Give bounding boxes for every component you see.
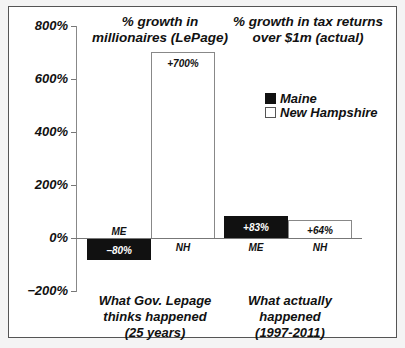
- group1-caption-line1: What Gov. Lepage: [85, 293, 225, 309]
- tick-600: [71, 79, 76, 80]
- group1-caption-line2: thinks happened: [85, 309, 225, 325]
- bar-label-nh-actual: +64%: [288, 225, 352, 236]
- group2-caption-line3: (1997-2011): [230, 325, 350, 341]
- legend-item-maine: Maine: [265, 91, 317, 106]
- group2-caption: What actually happened (1997-2011): [230, 293, 350, 341]
- legend-swatch-new-hampshire: [265, 107, 276, 118]
- group1-caption: What Gov. Lepage thinks happened (25 yea…: [85, 293, 225, 341]
- tick-minus-200: [71, 291, 76, 292]
- tick-400: [71, 132, 76, 133]
- legend-swatch-maine: [265, 93, 276, 104]
- legend-label-new-hampshire: New Hampshire: [280, 105, 378, 120]
- cat-label-me: ME: [87, 226, 151, 237]
- legend-item-new-hampshire: New Hampshire: [265, 105, 378, 120]
- group1-title-line2: millionaires (LePage): [80, 30, 240, 46]
- cat-label-nh: NH: [288, 242, 352, 253]
- group1-title-line1: % growth in: [80, 14, 240, 30]
- group2-title-line2: over $1m (actual): [218, 30, 398, 46]
- group2-caption-line1: What actually: [230, 293, 350, 309]
- group1-title: % growth in millionaires (LePage): [80, 14, 240, 46]
- y-tick-label: −200%: [6, 283, 68, 298]
- bar-label-me-actual: +83%: [224, 222, 288, 233]
- group2-caption-line2: happened: [230, 309, 350, 325]
- y-tick-label: 0%: [6, 230, 68, 245]
- legend-label-maine: Maine: [280, 91, 317, 106]
- y-axis: [76, 26, 77, 292]
- tick-200: [71, 185, 76, 186]
- zero-baseline: [76, 238, 362, 239]
- tick-800: [71, 26, 76, 27]
- cat-label-nh: NH: [151, 242, 215, 253]
- y-tick-label: 800%: [6, 18, 68, 33]
- bar-nh-lepage: [151, 52, 215, 239]
- group1-caption-line3: (25 years): [85, 325, 225, 341]
- bar-label-me-lepage: −80%: [87, 245, 151, 256]
- y-tick-label: 400%: [6, 124, 68, 139]
- bar-label-nh-lepage: +700%: [151, 58, 215, 69]
- y-tick-label: 600%: [6, 71, 68, 86]
- group2-title-line1: % growth in tax returns: [218, 14, 398, 30]
- y-tick-label: 200%: [6, 177, 68, 192]
- cat-label-me: ME: [224, 242, 288, 253]
- group2-title: % growth in tax returns over $1m (actual…: [218, 14, 398, 46]
